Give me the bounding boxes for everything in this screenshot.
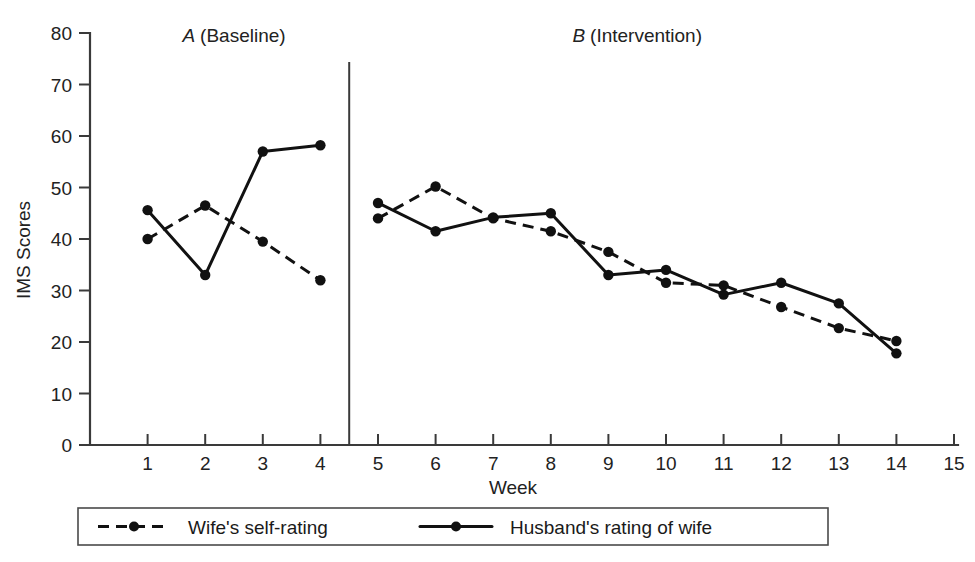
x-tick-label: 4: [315, 453, 326, 474]
data-point: [891, 336, 901, 346]
x-axis-title: Week: [489, 477, 538, 498]
y-axis-title: IMS Scores: [13, 201, 34, 299]
data-point: [258, 146, 268, 156]
y-tick-label: 50: [51, 178, 72, 199]
data-point: [718, 280, 728, 290]
legend: Wife's self-ratingHusband's rating of wi…: [78, 508, 828, 545]
series-path-phase-b: [378, 186, 896, 341]
x-tick-label: 3: [258, 453, 269, 474]
phase-label-a: A(Baseline): [181, 25, 285, 46]
data-point: [373, 213, 383, 223]
data-point: [661, 265, 671, 275]
legend-marker: [451, 522, 461, 532]
data-point: [834, 298, 844, 308]
data-point: [661, 278, 671, 288]
y-tick-label: 10: [51, 384, 72, 405]
x-tick-label: 11: [714, 453, 734, 474]
legend-label-2: Husband's rating of wife: [510, 517, 712, 538]
y-tick-label: 40: [51, 229, 72, 250]
y-tick-label: 30: [51, 281, 72, 302]
data-point: [718, 289, 728, 299]
phase-name-a: (Baseline): [200, 25, 286, 46]
x-tick-label: 8: [546, 453, 557, 474]
data-point: [891, 348, 901, 358]
chart-container: 01020304050607080 123456789101112131415 …: [0, 0, 975, 562]
y-tick-label: 0: [61, 435, 72, 456]
y-axis: 01020304050607080: [51, 23, 90, 456]
data-series-group: [142, 140, 901, 358]
data-point: [834, 323, 844, 333]
x-tick-label: 7: [488, 453, 499, 474]
x-tick-label: 13: [828, 453, 849, 474]
x-tick-label: 6: [430, 453, 441, 474]
phase-name-b: (Intervention): [590, 25, 702, 46]
y-tick-label: 80: [51, 23, 72, 44]
data-point: [430, 181, 440, 191]
x-tick-label: 9: [603, 453, 614, 474]
x-axis: 123456789101112131415: [90, 434, 965, 474]
legend-marker: [129, 522, 139, 532]
phase-label-b: B(Intervention): [572, 25, 702, 46]
phase-letter-a: A: [181, 25, 195, 46]
data-point: [776, 278, 786, 288]
data-point: [603, 247, 613, 257]
y-tick-label: 60: [51, 126, 72, 147]
data-point: [546, 208, 556, 218]
data-point: [488, 212, 498, 222]
x-tick-label: 1: [142, 453, 153, 474]
x-tick-label: 10: [655, 453, 676, 474]
y-tick-label: 20: [51, 332, 72, 353]
phase-letter-b: B: [572, 25, 585, 46]
data-point: [142, 205, 152, 215]
data-point: [373, 198, 383, 208]
series-path-phase-b: [378, 203, 896, 353]
series-husband-rating-of-wife: [142, 140, 901, 358]
data-point: [200, 270, 210, 280]
data-point: [200, 200, 210, 210]
data-point: [258, 236, 268, 246]
data-point: [603, 270, 613, 280]
y-tick-label: 70: [51, 75, 72, 96]
legend-label-1: Wife's self-rating: [188, 517, 328, 538]
x-tick-label: 14: [886, 453, 908, 474]
data-point: [546, 226, 556, 236]
data-point: [315, 140, 325, 150]
x-tick-label: 12: [771, 453, 792, 474]
data-point: [430, 226, 440, 236]
series-path-phase-a: [148, 145, 321, 275]
phase-labels: A(Baseline)B(Intervention): [181, 25, 702, 46]
x-tick-label: 2: [200, 453, 211, 474]
data-point: [776, 302, 786, 312]
x-tick-label: 5: [373, 453, 384, 474]
data-point: [315, 275, 325, 285]
single-case-design-line-chart: 01020304050607080 123456789101112131415 …: [0, 0, 975, 562]
series-wife-self-rating: [142, 181, 901, 346]
data-point: [142, 234, 152, 244]
x-tick-label: 15: [943, 453, 964, 474]
